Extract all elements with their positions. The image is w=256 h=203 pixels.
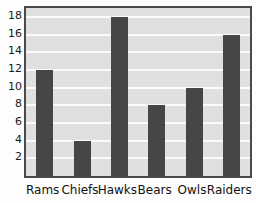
y-axis-tick-label: 16 bbox=[0, 27, 22, 38]
y-axis-tick-label: 2 bbox=[0, 151, 22, 162]
y-axis-tick-label: 6 bbox=[0, 115, 22, 126]
y-axis-tick-label: 4 bbox=[0, 133, 22, 144]
bar bbox=[74, 141, 91, 176]
bar bbox=[223, 35, 240, 176]
x-axis: RamsChiefsHawksBearsOwlsRaiders bbox=[24, 182, 252, 200]
y-axis-tick-label: 12 bbox=[0, 62, 22, 73]
x-axis-category-label: Chiefs bbox=[61, 182, 98, 198]
x-axis-category-label: Raiders bbox=[207, 182, 252, 198]
bar bbox=[148, 105, 165, 176]
bar bbox=[36, 70, 53, 176]
y-axis-tick-label: 8 bbox=[0, 98, 22, 109]
y-axis-tick-label: 14 bbox=[0, 45, 22, 56]
x-axis-category-label: Rams bbox=[26, 182, 59, 198]
x-axis-category-label: Hawks bbox=[98, 182, 137, 198]
y-axis-tick-label: 10 bbox=[0, 80, 22, 91]
bar bbox=[111, 17, 128, 176]
bars-layer bbox=[26, 8, 250, 176]
plot-frame bbox=[24, 6, 252, 178]
bar bbox=[186, 88, 203, 176]
x-axis-category-label: Owls bbox=[178, 182, 207, 198]
y-axis: 24681012141618 bbox=[0, 11, 22, 178]
y-axis-tick-label: 18 bbox=[0, 9, 22, 20]
x-axis-category-label: Bears bbox=[138, 182, 172, 198]
bar-chart: 24681012141618 RamsChiefsHawksBearsOwlsR… bbox=[0, 0, 256, 203]
